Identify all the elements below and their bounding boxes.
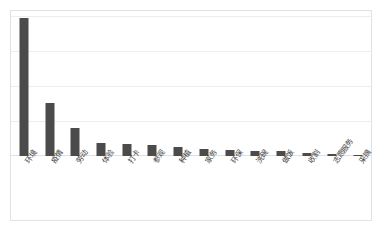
- tick-label-slot: 环保: [217, 158, 243, 220]
- bar-slot: [140, 11, 166, 156]
- bar-slot: [11, 11, 37, 156]
- bar-slot: [345, 11, 371, 156]
- tick-label-slot: 种植: [165, 158, 191, 220]
- bar-slot: [217, 11, 243, 156]
- bar-0[interactable]: [19, 18, 28, 156]
- bar-slot: [114, 11, 140, 156]
- bar-slot: [62, 11, 88, 156]
- tick-label-slot: 家务: [191, 158, 217, 220]
- bar-1[interactable]: [45, 103, 54, 156]
- tick-label-slot: 体验: [88, 158, 114, 220]
- bar-slot: [37, 11, 63, 156]
- tick-label-slot: 采摘: [345, 158, 371, 220]
- tick-label-slot: 志愿服务: [320, 158, 346, 220]
- tick-label-slot: 参观: [140, 158, 166, 220]
- tick-label-slot: 打卡: [114, 158, 140, 220]
- tick-label-slot: 环境: [11, 158, 37, 220]
- bar-chart-figure: 环境 疫情 劳动 体验 打卡 参观 种植 家务 环保 洗碗 做饭: [0, 0, 382, 236]
- tick-label-slot: 收割: [294, 158, 320, 220]
- tick-label-slot: 做饭: [268, 158, 294, 220]
- bar-slot: [165, 11, 191, 156]
- bar-slot: [242, 11, 268, 156]
- bar-slot: [294, 11, 320, 156]
- bar-slot: [268, 11, 294, 156]
- bar-slot: [88, 11, 114, 156]
- x-axis-labels: 环境 疫情 劳动 体验 打卡 参观 种植 家务 环保 洗碗 做饭: [11, 158, 371, 220]
- tick-label-slot: 劳动: [62, 158, 88, 220]
- tick-label-slot: 洗碗: [242, 158, 268, 220]
- bars-layer: [11, 11, 371, 156]
- tick-label-slot: 疫情: [37, 158, 63, 220]
- bar-slot: [191, 11, 217, 156]
- bar-slot: [320, 11, 346, 156]
